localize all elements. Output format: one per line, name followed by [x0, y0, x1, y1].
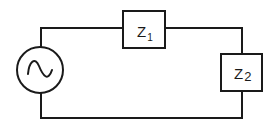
- wire-top-right: [165, 28, 242, 54]
- z2-letter: Z: [234, 65, 243, 82]
- impedance-z1: Z1: [123, 11, 165, 48]
- circuit-diagram: Z1 Z2: [0, 0, 275, 126]
- z1-letter: Z: [137, 23, 146, 40]
- z2-subscript: 2: [244, 69, 251, 84]
- impedance-z2: Z2: [221, 54, 262, 91]
- wire-bottom: [41, 91, 242, 118]
- wire-left-upper: [41, 28, 123, 47]
- ac-source: [17, 47, 63, 93]
- z1-subscript: 1: [147, 32, 153, 43]
